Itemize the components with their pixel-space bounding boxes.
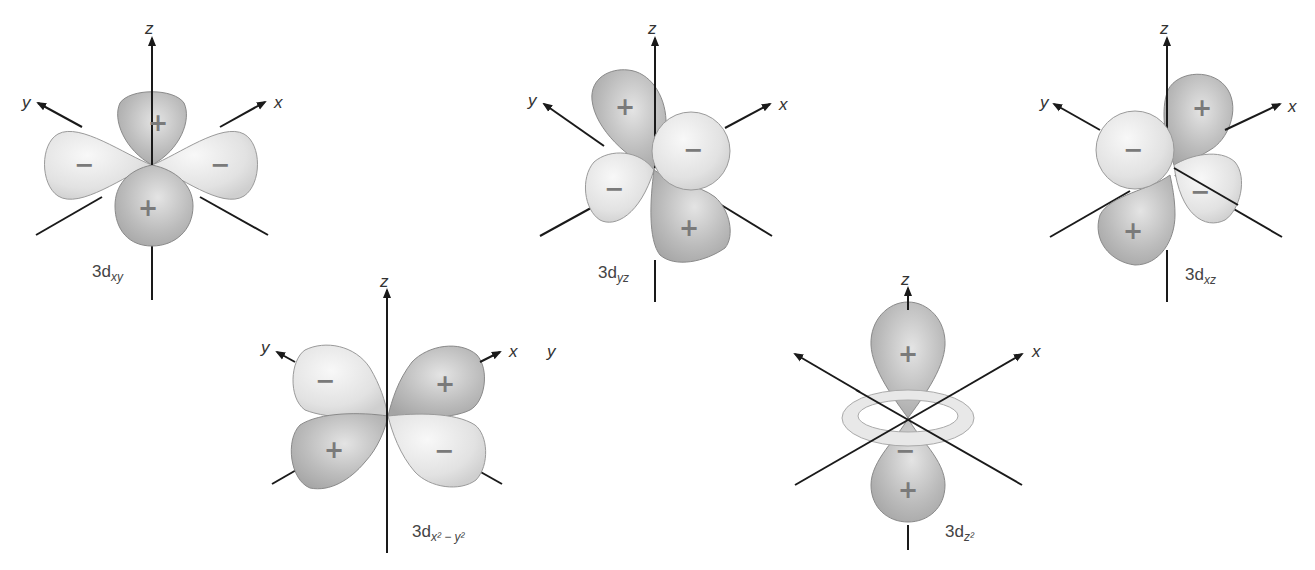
sign-left: −	[74, 151, 94, 179]
sign-top: +	[898, 340, 918, 368]
stray-y-label: y	[546, 342, 557, 361]
caption-dxy: 3dxy	[92, 262, 124, 284]
sign-bottom: +	[138, 194, 158, 222]
sign-lower-left: +	[324, 436, 344, 464]
y-label: y	[527, 91, 538, 110]
y-axis	[795, 354, 860, 392]
orbital-dxz: z y x + − − + 3dxz	[1039, 19, 1297, 302]
x-label: x	[778, 95, 788, 114]
x-axis	[960, 354, 1022, 390]
z-label: z	[144, 19, 154, 38]
x-label: x	[1031, 342, 1041, 361]
sign-upper-right: +	[1192, 94, 1212, 122]
y-axis-back	[36, 197, 102, 235]
sign-front-left: −	[1123, 136, 1143, 164]
y-axis	[277, 352, 295, 362]
sign-top: +	[148, 109, 168, 137]
sign-torus: −	[895, 437, 915, 465]
sign-upper-left: +	[615, 93, 635, 121]
caption-dxz: 3dxz	[1185, 265, 1216, 287]
x-axis	[480, 352, 500, 362]
sign-lower-right: +	[679, 214, 699, 242]
x-label: x	[508, 342, 518, 361]
z-label: z	[379, 272, 389, 291]
y-label: y	[21, 93, 32, 112]
y-label: y	[260, 338, 271, 357]
x-axis	[725, 104, 770, 128]
orbital-dxy: z y x + − − + 3dxy	[21, 19, 283, 300]
x-label: x	[1287, 97, 1297, 116]
sign-lower-left: −	[604, 175, 624, 203]
z-label: z	[900, 270, 910, 289]
orbital-dyz: z y x + − − + 3dyz	[527, 19, 788, 302]
caption-dz2: 3dz²	[945, 522, 975, 544]
sign-upper-right: +	[435, 370, 455, 398]
sign-upper-left: −	[315, 367, 335, 395]
orbital-dz2: z x + − + 3dz²	[795, 270, 1041, 550]
caption-dx2-y2: 3dx² − y²	[412, 522, 466, 544]
caption-dyz: 3dyz	[598, 263, 629, 285]
sign-lower-left: +	[1123, 217, 1143, 245]
y-axis	[1054, 104, 1100, 130]
sign-bottom: +	[898, 476, 918, 504]
x-axis-back	[200, 197, 268, 235]
sign-front-right: −	[683, 136, 703, 164]
x-axis	[220, 102, 265, 127]
y-label: y	[1039, 93, 1050, 112]
sign-lower-right: −	[434, 437, 454, 465]
y-axis	[38, 103, 82, 127]
z-label: z	[1159, 19, 1169, 38]
d-orbitals-diagram: z y x + − − + 3dxy z y x + − − + 3dyz	[0, 0, 1315, 570]
x-label: x	[273, 93, 283, 112]
lobe-upper-left	[293, 345, 388, 418]
sign-right: −	[210, 151, 230, 179]
orbital-dx2-y2: z y x y − + + − 3dx² − y²	[260, 272, 557, 553]
z-label: z	[647, 19, 657, 38]
sign-lower-right: −	[1190, 178, 1210, 206]
